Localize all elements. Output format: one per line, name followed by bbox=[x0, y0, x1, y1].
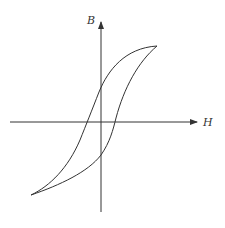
descending-branch bbox=[31, 46, 157, 195]
ascending-branch bbox=[31, 46, 157, 195]
b-axis-label: B bbox=[86, 14, 95, 27]
h-axis-label: H bbox=[202, 116, 213, 129]
hysteresis-diagram: B H bbox=[0, 0, 225, 228]
